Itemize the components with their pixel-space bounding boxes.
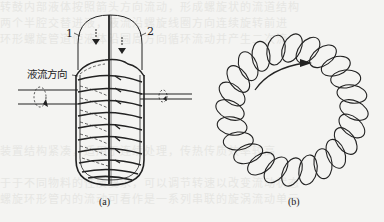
helix-loop bbox=[259, 153, 292, 188]
helix-loop bbox=[306, 40, 341, 72]
toroidal-helix-diagram bbox=[213, 31, 372, 190]
helix-loop bbox=[215, 77, 250, 110]
circulation-arrow bbox=[255, 63, 305, 90]
helix-loop bbox=[297, 154, 320, 187]
chamber-label-2: 2 bbox=[147, 25, 154, 38]
helix-loop bbox=[244, 148, 279, 180]
helix-loop bbox=[265, 34, 288, 67]
drum-diagram bbox=[18, 15, 192, 185]
helix-loop bbox=[222, 62, 254, 97]
helix-loop bbox=[335, 109, 370, 142]
caption-b: (b) bbox=[288, 196, 300, 207]
flow-direction-label: 液流方向 bbox=[27, 66, 67, 81]
helix-loop bbox=[216, 115, 249, 138]
chamber-label-1: 1 bbox=[66, 27, 73, 40]
helix-loop bbox=[330, 124, 362, 159]
helix-loop bbox=[336, 83, 369, 106]
caption-a: (a) bbox=[99, 196, 110, 207]
figure-drawing bbox=[0, 0, 384, 222]
